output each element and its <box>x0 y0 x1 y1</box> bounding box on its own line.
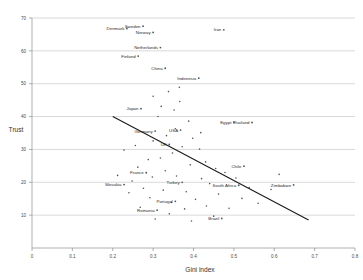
data-point <box>154 218 156 220</box>
scatter-chart: 10203040506070 00.10.20.30.40.50.60.70.8… <box>0 0 363 280</box>
data-point <box>199 148 201 150</box>
x-tick-label-2: 0.2 <box>110 254 117 259</box>
data-point <box>278 174 280 176</box>
x-tick-label-3: 0.3 <box>150 254 157 259</box>
y-tick-label-60: 60 <box>21 49 27 54</box>
data-point-slovakia <box>123 184 125 186</box>
data-point-china <box>164 67 166 69</box>
data-point <box>205 161 207 163</box>
plot-area: 10203040506070 00.10.20.30.40.50.60.70.8… <box>0 0 363 280</box>
point-label-netherlands: Netherlands <box>134 45 158 50</box>
data-point <box>179 101 181 103</box>
x-axis-title: Gini index <box>185 266 215 273</box>
data-point <box>176 175 178 177</box>
data-point <box>235 177 237 179</box>
data-point-finland <box>137 55 139 57</box>
point-label-south-africa: South Africa <box>213 183 237 188</box>
point-label-brazil: Brazil <box>208 216 219 221</box>
x-tick-label-0: 0 <box>31 254 34 259</box>
data-point <box>128 192 130 194</box>
data-point-romania <box>156 209 158 211</box>
y-tick-label-50: 50 <box>21 81 27 86</box>
data-point <box>117 175 119 177</box>
data-points <box>117 25 295 222</box>
data-point-thailand <box>251 122 253 124</box>
y-tick-label-70: 70 <box>21 16 27 21</box>
point-labels: DenmarkSwedenNorwayIranNetherlandsFinlan… <box>105 24 292 221</box>
data-point <box>181 146 183 148</box>
x-tick-label-5: 0.5 <box>231 254 238 259</box>
x-tick-label-6: 0.6 <box>271 254 278 259</box>
data-point-sweden <box>142 25 144 27</box>
data-point <box>172 152 174 154</box>
data-point-turkey <box>181 181 183 183</box>
data-point <box>168 91 170 93</box>
data-point <box>135 145 137 147</box>
x-tick-labels: 00.10.20.30.40.50.60.70.8 <box>31 254 359 259</box>
data-point-brazil <box>221 218 223 220</box>
point-label-usa: USA <box>169 128 178 133</box>
data-point <box>192 137 194 139</box>
regression-line <box>113 117 309 221</box>
data-point-usa <box>180 129 182 131</box>
data-point <box>215 168 217 170</box>
x-tick-label-7: 0.7 <box>311 254 318 259</box>
x-tick-label-8: 0.8 <box>352 254 359 259</box>
point-label-china: China <box>151 66 163 71</box>
y-tick-labels: 10203040506070 <box>21 16 27 218</box>
data-point <box>185 191 187 193</box>
point-label-thailand: Thailand <box>233 120 250 125</box>
point-label-chile: Chile <box>231 164 242 169</box>
data-point <box>206 205 208 207</box>
data-point-iran <box>223 29 225 31</box>
data-point-chile <box>243 165 245 167</box>
data-point-netherlands <box>159 47 161 49</box>
point-label-slovakia: Slovakia <box>105 182 122 187</box>
data-point-japan <box>140 108 142 110</box>
data-point <box>152 95 154 97</box>
data-point <box>152 140 154 142</box>
data-point-portugal <box>174 200 176 202</box>
data-point <box>224 172 226 174</box>
x-tick-label-4: 0.4 <box>190 254 197 259</box>
data-point <box>200 132 202 134</box>
data-point <box>228 207 230 209</box>
data-point-indonesia <box>198 77 200 79</box>
x-tick-label-1: 0.1 <box>69 254 76 259</box>
data-point-zimbabwe <box>293 184 295 186</box>
point-label-norway: Norway <box>136 30 152 35</box>
point-label-sweden: Sweden <box>125 24 141 29</box>
data-point <box>173 109 175 111</box>
data-point-germany <box>154 130 156 132</box>
data-point <box>160 157 162 159</box>
data-point-norway <box>152 32 154 34</box>
tick-marks <box>29 18 355 251</box>
data-point <box>143 187 145 189</box>
data-point <box>191 220 193 222</box>
data-point <box>241 198 243 200</box>
point-label-zimbabwe: Zimbabwe <box>271 183 292 188</box>
data-point <box>189 164 191 166</box>
data-point <box>270 189 272 191</box>
point-label-japan: Japan <box>127 106 140 111</box>
data-point <box>166 135 168 137</box>
point-label-denmark: Denmark <box>107 26 126 31</box>
point-label-romania: Romania <box>137 208 155 213</box>
data-point <box>179 87 181 89</box>
point-label-indonesia: Indonesia <box>177 76 197 81</box>
data-point <box>123 149 125 151</box>
axes <box>32 18 355 248</box>
point-label-portugal: Portugal <box>156 199 172 204</box>
data-point <box>184 208 186 210</box>
data-point <box>201 178 203 180</box>
y-tick-label-40: 40 <box>21 114 27 119</box>
point-label-finland: Finland <box>121 54 136 59</box>
y-tick-label-30: 30 <box>21 147 27 152</box>
point-label-egypt: Egypt <box>220 120 232 125</box>
data-point <box>209 183 211 185</box>
data-point <box>164 170 166 172</box>
point-label-iran: Iran <box>214 27 222 32</box>
y-tick-label-20: 20 <box>21 180 27 185</box>
data-point <box>152 176 154 178</box>
data-point-uk <box>168 144 170 146</box>
